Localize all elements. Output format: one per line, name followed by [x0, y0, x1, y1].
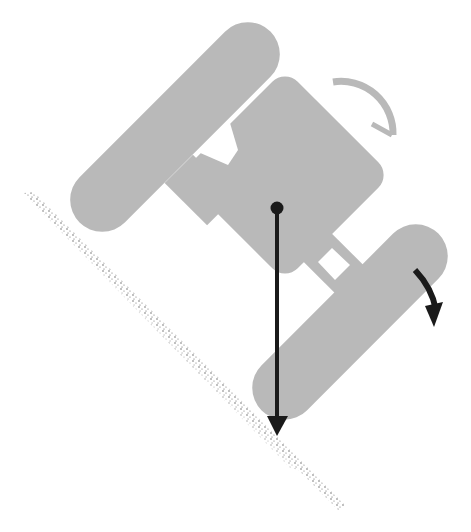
tractor-rollover-diagram — [0, 0, 471, 532]
tractor — [57, 9, 461, 433]
curved-arrow-head-icon — [425, 302, 443, 327]
